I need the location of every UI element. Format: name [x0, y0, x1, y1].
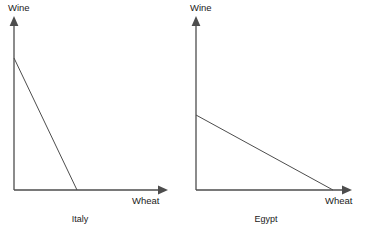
egypt-ppf-line	[196, 115, 333, 190]
italy-x-axis-label: Wheat	[132, 196, 159, 206]
ppf-diagram-canvas	[0, 0, 366, 237]
italy-x-axis-arrowhead	[158, 185, 168, 194]
egypt-x-axis-label: Wheat	[325, 196, 352, 206]
italy-y-axis-arrowhead	[10, 16, 19, 26]
italy-caption: Italy	[58, 215, 102, 224]
egypt-caption: Egypt	[240, 215, 292, 224]
egypt-y-axis-arrowhead	[192, 16, 201, 26]
italy-panel	[10, 16, 168, 195]
egypt-panel	[192, 16, 352, 195]
egypt-x-axis-arrowhead	[342, 185, 352, 194]
italy-ppf-line	[14, 58, 77, 190]
ppf-figure: Wine Wheat Italy Wine Wheat Egypt	[0, 0, 366, 237]
italy-y-axis-label: Wine	[8, 3, 30, 13]
egypt-y-axis-label: Wine	[190, 3, 212, 13]
